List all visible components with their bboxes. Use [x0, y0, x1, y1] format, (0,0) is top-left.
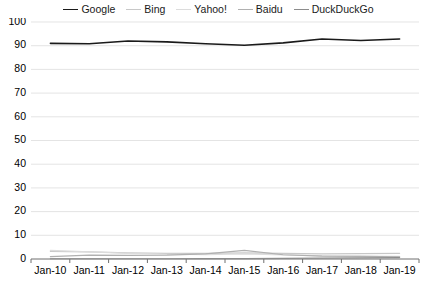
- x-axis-tick-label: Jan-17: [306, 264, 338, 276]
- y-axis-tick-label: 90: [14, 38, 26, 50]
- legend-line-swatch-icon: [176, 9, 191, 10]
- y-axis-tick-label: 70: [14, 86, 26, 98]
- x-axis-tick-label: Jan-11: [74, 264, 105, 276]
- y-axis-tick-label: 0: [20, 252, 26, 264]
- y-axis-tick-label: 30: [14, 181, 26, 193]
- x-axis-tick-labels: Jan-10Jan-11Jan-12Jan-13Jan-14Jan-15Jan-…: [34, 264, 415, 276]
- y-axis-tick-labels: 0102030405060708090100: [8, 18, 26, 264]
- legend-item-label: Yahoo!: [194, 4, 227, 15]
- x-axis-tick-label: Jan-12: [112, 264, 144, 276]
- legend-item-yahoo[interactable]: Yahoo!: [176, 4, 227, 15]
- y-axis-tick-label: 80: [14, 62, 26, 74]
- x-axis-tick-label: Jan-10: [34, 264, 66, 276]
- legend-item-duckduckgo[interactable]: DuckDuckGo: [294, 4, 374, 15]
- y-axis-tick-label: 60: [14, 110, 26, 122]
- x-axis-tick-label: Jan-13: [151, 264, 183, 276]
- data-series-group: [50, 39, 399, 259]
- y-axis-tick-label: 10: [14, 228, 26, 240]
- y-axis-tick-label: 100: [8, 18, 26, 27]
- y-axis-tick-label: 50: [14, 133, 26, 145]
- gridlines-group: [31, 22, 419, 235]
- legend-item-bing[interactable]: Bing: [126, 4, 165, 15]
- line-chart: GoogleBingYahoo!BaiduDuckDuckGo 01020304…: [0, 0, 437, 283]
- x-axis-tick-label: Jan-14: [190, 264, 222, 276]
- legend-item-label: Baidu: [256, 4, 283, 15]
- legend-line-swatch-icon: [63, 9, 78, 10]
- x-axis-tick-label: Jan-16: [267, 264, 299, 276]
- x-axis-tick-label: Jan-19: [384, 264, 416, 276]
- plot-area: 0102030405060708090100 Jan-10Jan-11Jan-1…: [0, 18, 437, 283]
- x-axis-tick-label: Jan-18: [345, 264, 377, 276]
- legend-line-swatch-icon: [126, 9, 141, 10]
- plot-svg: 0102030405060708090100 Jan-10Jan-11Jan-1…: [0, 18, 437, 283]
- y-axis-tick-label: 20: [14, 204, 26, 216]
- legend-item-google[interactable]: Google: [63, 4, 115, 15]
- legend-line-swatch-icon: [238, 9, 253, 10]
- legend-item-label: Bing: [144, 4, 165, 15]
- legend-item-label: DuckDuckGo: [312, 4, 374, 15]
- chart-legend: GoogleBingYahoo!BaiduDuckDuckGo: [0, 0, 437, 18]
- legend-item-label: Google: [81, 4, 115, 15]
- x-axis: [31, 259, 419, 263]
- x-axis-tick-label: Jan-15: [228, 264, 260, 276]
- y-axis-tick-label: 40: [14, 157, 26, 169]
- series-line-google: [50, 39, 399, 45]
- legend-line-swatch-icon: [294, 9, 309, 10]
- legend-item-baidu[interactable]: Baidu: [238, 4, 283, 15]
